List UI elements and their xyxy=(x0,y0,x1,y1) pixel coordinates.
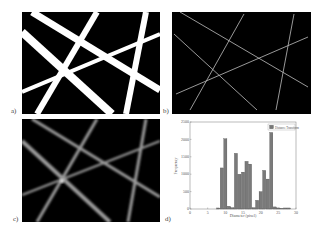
panel-b-label: b) xyxy=(163,107,169,115)
distance-transform-image xyxy=(22,119,160,222)
histogram-bar xyxy=(280,208,283,209)
histogram-bar xyxy=(256,200,259,209)
histogram-bar xyxy=(263,170,266,209)
histogram-bar xyxy=(241,172,244,209)
histogram-bar xyxy=(248,164,251,209)
histogram-bar xyxy=(259,192,262,209)
x-tick-label: 10 xyxy=(223,210,227,215)
histogram-bar xyxy=(266,179,269,209)
histogram-bar xyxy=(224,139,227,209)
histogram-chart: 05001000150020002500 051015202530 Distan… xyxy=(172,118,312,218)
histogram-bar xyxy=(284,208,287,209)
panel-c-label: c) xyxy=(13,215,18,223)
histogram-bar xyxy=(227,206,230,209)
binary-fiber-image xyxy=(22,12,160,114)
panel-d-histogram: 05001000150020002500 051015202530 Distan… xyxy=(172,118,312,218)
y-tick-label: 2500 xyxy=(181,119,189,124)
x-tick-label: 0 xyxy=(189,210,191,215)
panel-a-label: a) xyxy=(11,107,16,115)
histogram-bar xyxy=(273,207,276,209)
legend: Distance Transform xyxy=(268,124,299,130)
histogram-bar xyxy=(277,208,280,209)
y-axis-label: Frequency xyxy=(173,158,178,175)
y-tick-label: 2000 xyxy=(181,137,189,142)
histogram-bar xyxy=(252,208,255,209)
x-tick-label: 25 xyxy=(276,210,280,215)
histogram-bar xyxy=(238,174,241,209)
panel-c-distance-transform-image xyxy=(22,119,160,222)
x-tick-label: 20 xyxy=(259,210,263,215)
histogram-bar xyxy=(231,208,234,209)
histogram-bar xyxy=(287,208,290,209)
y-tick-label: 1500 xyxy=(181,154,189,159)
panel-b-skeleton-image xyxy=(172,12,311,114)
histogram-bar xyxy=(245,161,248,209)
y-tick-label: 1000 xyxy=(181,171,189,176)
x-tick-label: 30 xyxy=(294,210,298,215)
x-tick-label: 5 xyxy=(207,210,209,215)
legend-swatch xyxy=(270,125,274,129)
panel-d-label: d) xyxy=(165,215,171,223)
histogram-bar xyxy=(270,132,273,209)
y-tick-label: 500 xyxy=(183,189,189,194)
skeleton-fiber-image xyxy=(172,12,311,114)
histogram-bar xyxy=(220,168,223,209)
panel-a-binary-image xyxy=(22,12,160,114)
x-axis-label: Diameter (pixel) xyxy=(230,213,257,218)
legend-label: Distance Transform xyxy=(275,126,299,130)
histogram-bar xyxy=(234,153,237,209)
histogram-bar xyxy=(217,208,220,209)
